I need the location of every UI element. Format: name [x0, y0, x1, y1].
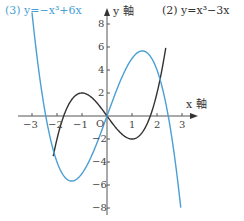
y-tick-label: −2 [92, 133, 107, 144]
x-axis-arrow-icon [190, 113, 198, 119]
y-tick-label: −8 [92, 202, 107, 213]
x-tick-label: −3 [23, 119, 38, 130]
curve-x3-minus-3x [53, 48, 166, 156]
function-plot [0, 0, 244, 221]
y-axis-label: y 軸 [113, 6, 134, 18]
x-tick-label: −2 [48, 119, 63, 130]
y-tick-label: 6 [98, 41, 104, 52]
y-tick-label: 8 [98, 18, 104, 29]
y-tick-label: −6 [92, 179, 107, 190]
y-tick-label: 2 [98, 87, 104, 98]
x-tick-label: −1 [73, 119, 88, 130]
x-tick-label: 1 [129, 119, 135, 130]
x-tick-label: 3 [179, 119, 185, 130]
curve3-label: (3) y=−x³+6x [5, 5, 82, 17]
x-axis-label: x 軸 [186, 99, 207, 111]
y-axis-arrow-icon [104, 8, 110, 16]
y-tick-label: 4 [98, 64, 104, 75]
y-tick-label: −4 [92, 156, 107, 167]
x-tick-label: 2 [154, 119, 160, 130]
origin-label: O [96, 118, 104, 129]
curve2-label: (2) y=x³−3x [162, 5, 230, 17]
